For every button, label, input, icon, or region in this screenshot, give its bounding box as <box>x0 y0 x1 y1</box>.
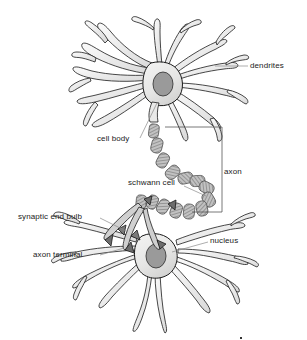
label-axon-terminal: axon terminal <box>33 250 82 259</box>
label-nucleus: nucleus <box>210 236 238 245</box>
label-cell-body: cell body <box>97 134 129 143</box>
label-axon: axon <box>224 167 242 176</box>
label-dendrites: dendrites <box>250 61 284 70</box>
myelin-segment <box>150 137 164 154</box>
neuron-illustration <box>0 0 307 340</box>
axon-hillock <box>149 102 159 122</box>
neuron-diagram: dendrites cell body axon schwann cell sy… <box>0 0 307 340</box>
myelin-segment <box>154 151 171 169</box>
label-schwann-cell: schwann cell <box>128 178 175 187</box>
nucleus-upper <box>153 72 173 96</box>
myelin-segment <box>148 123 160 138</box>
label-synaptic-end-bulb: synaptic end bulb <box>18 212 82 221</box>
axon-myelin-group <box>135 123 217 219</box>
myelin-segment <box>183 203 196 219</box>
upper-neuron-group <box>69 17 249 142</box>
scan-artifact-speck <box>240 337 242 339</box>
lower-neuron-group <box>52 196 259 333</box>
